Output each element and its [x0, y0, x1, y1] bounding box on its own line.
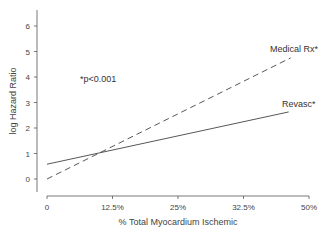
y-axis-title: log Hazard Ratio — [8, 67, 18, 134]
series-label-medical-rx: Medical Rx* — [270, 44, 319, 54]
series-label-revasc: Revasc* — [282, 99, 316, 109]
y-tick-label: 4 — [26, 73, 31, 82]
x-tick-label: 12.5% — [101, 203, 124, 212]
x-tick-label: 50% — [301, 203, 317, 212]
series-line-revasc — [47, 112, 289, 164]
y-tick-label: 2 — [26, 124, 31, 133]
y-tick-label: 1 — [26, 150, 31, 159]
x-tick-label: 0 — [45, 203, 50, 212]
x-axis-ticks: 012.5%25%32.5%50% — [45, 196, 317, 212]
y-tick-label: 0 — [26, 175, 31, 184]
y-tick-label: 3 — [26, 99, 31, 108]
x-axis-title: % Total Myocardium Ischemic — [119, 217, 238, 227]
x-tick-label: 25% — [170, 203, 186, 212]
x-tick-label: 32.5% — [232, 203, 255, 212]
y-axis-ticks: 0123456 — [26, 22, 37, 184]
significance-annotation: *p<0.001 — [80, 74, 116, 84]
y-tick-label: 5 — [26, 48, 31, 57]
y-tick-label: 6 — [26, 22, 31, 31]
chart-canvas: 0123456 log Hazard Ratio 012.5%25%32.5%5… — [0, 0, 329, 235]
